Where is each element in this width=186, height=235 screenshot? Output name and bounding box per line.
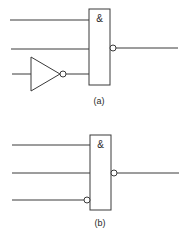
inverter-triangle-icon <box>31 57 60 91</box>
circuit-b: & (b) <box>12 135 179 228</box>
input-bubble-icon-b <box>84 197 90 203</box>
circuit-a: & (a) <box>10 9 178 106</box>
inverter-bubble-icon <box>60 71 66 77</box>
gate-symbol-a: & <box>96 13 103 24</box>
logic-diagram: & (a) & (b) <box>0 0 186 235</box>
caption-b: (b) <box>95 218 106 228</box>
output-bubble-icon-b <box>111 170 117 176</box>
output-bubble-icon-a <box>110 45 116 51</box>
caption-a: (a) <box>94 96 105 106</box>
gate-symbol-b: & <box>97 139 104 150</box>
